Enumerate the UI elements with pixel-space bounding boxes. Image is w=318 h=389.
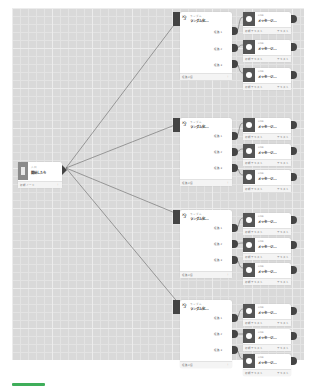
- start-node-menu[interactable]: ⋮: [57, 183, 60, 186]
- start-node-type: 入口: [31, 165, 37, 169]
- message-footer-type: テキスト: [277, 161, 289, 165]
- randomize-icon: ⅋: [182, 120, 187, 127]
- path-label: 経路1: [214, 226, 222, 230]
- message-icon-box: [243, 40, 255, 54]
- message-node[interactable]: LINE メッセージ... 初期テキスト テキスト: [243, 238, 291, 260]
- randomizer-menu[interactable]: ⋮: [227, 363, 230, 366]
- randomizer-title: ランダム化...: [190, 124, 209, 129]
- message-title: メッセージ...: [258, 335, 277, 340]
- start-node[interactable]: 入口 開始したら 初期ノード ⋮: [18, 162, 62, 188]
- message-footer-label: 初期テキスト: [245, 161, 263, 165]
- randomizer-footer: 経路3個 ⋮: [180, 271, 232, 278]
- randomize-icon: ⅋: [182, 302, 187, 309]
- message-icon-box: [243, 329, 255, 343]
- randomizer-title: ランダム化...: [190, 216, 209, 221]
- message-type: LINE: [258, 240, 264, 243]
- message-footer: 初期テキスト テキスト: [243, 344, 291, 351]
- message-node[interactable]: LINE メッセージ... 初期テキスト テキスト: [243, 68, 291, 90]
- randomizer-node[interactable]: ランダム ランダム化... ⅋ 経路1 経路2 経路3 経路3個 ⋮: [180, 12, 232, 80]
- message-node[interactable]: LINE メッセージ... 初期テキスト テキスト: [243, 263, 291, 285]
- path-label: 経路2: [214, 150, 222, 154]
- message-title: メッセージ...: [258, 310, 277, 315]
- message-footer-label: 初期テキスト: [245, 135, 263, 139]
- randomizer-menu[interactable]: ⋮: [227, 75, 230, 78]
- randomizer-footer: 経路3個 ⋮: [180, 73, 232, 80]
- path-label: 経路1: [214, 134, 222, 138]
- randomizer-menu[interactable]: ⋮: [227, 181, 230, 184]
- path-label: 経路1: [214, 30, 222, 34]
- message-node[interactable]: LINE メッセージ... 初期テキスト テキスト: [243, 329, 291, 351]
- message-title: メッセージ...: [258, 219, 277, 224]
- randomizer-node[interactable]: ランダム ランダム化... ⅋ 経路1 経路2 経路3 経路3個 ⋮: [180, 210, 232, 278]
- message-footer-label: 初期テキスト: [245, 187, 263, 191]
- entry-icon: [18, 162, 28, 180]
- message-footer-type: テキスト: [277, 135, 289, 139]
- message-footer: 初期テキスト テキスト: [243, 278, 291, 285]
- message-icon-box: [243, 118, 255, 132]
- chat-bubble-icon: [246, 217, 252, 223]
- message-footer: 初期テキスト テキスト: [243, 27, 291, 34]
- message-type: LINE: [258, 14, 264, 17]
- message-icon-box: [243, 263, 255, 277]
- message-node[interactable]: LINE メッセージ... 初期テキスト テキスト: [243, 144, 291, 166]
- message-footer-label: 初期テキスト: [245, 346, 263, 350]
- message-footer: 初期テキスト テキスト: [243, 369, 291, 376]
- message-footer-type: テキスト: [277, 57, 289, 61]
- message-node[interactable]: LINE メッセージ... 初期テキスト テキスト: [243, 170, 291, 192]
- message-type: LINE: [258, 215, 264, 218]
- randomizer-node[interactable]: ランダム ランダム化... ⅋ 経路1 経路2 経路3 経路3個 ⋮: [180, 300, 232, 368]
- message-footer: 初期テキスト テキスト: [243, 185, 291, 192]
- message-footer-type: テキスト: [277, 321, 289, 325]
- message-node[interactable]: LINE メッセージ... 初期テキスト テキスト: [243, 304, 291, 326]
- randomizer-menu[interactable]: ⋮: [227, 273, 230, 276]
- message-title: メッセージ...: [258, 269, 277, 274]
- message-type: LINE: [258, 146, 264, 149]
- path-label: 経路2: [214, 242, 222, 246]
- message-type: LINE: [258, 70, 264, 73]
- message-node[interactable]: LINE メッセージ... 初期テキスト テキスト: [243, 213, 291, 235]
- message-node[interactable]: LINE メッセージ... 初期テキスト テキスト: [243, 40, 291, 62]
- message-footer-label: 初期テキスト: [245, 29, 263, 33]
- message-footer: 初期テキスト テキスト: [243, 133, 291, 140]
- chat-bubble-icon: [246, 242, 252, 248]
- message-footer: 初期テキスト テキスト: [243, 253, 291, 260]
- randomizer-footer: 経路3個 ⋮: [180, 361, 232, 368]
- randomize-icon: ⅋: [182, 212, 187, 219]
- message-icon-box: [243, 144, 255, 158]
- message-footer-type: テキスト: [277, 371, 289, 375]
- message-type: LINE: [258, 331, 264, 334]
- randomize-icon: [173, 300, 180, 314]
- chat-bubble-icon: [246, 358, 252, 364]
- message-node[interactable]: LINE メッセージ... 初期テキスト テキスト: [243, 12, 291, 34]
- message-title: メッセージ...: [258, 244, 277, 249]
- start-node-title: 開始したら: [31, 170, 46, 175]
- randomizer-node[interactable]: ランダム ランダム化... ⅋ 経路1 経路2 経路3 経路3個 ⋮: [180, 118, 232, 186]
- message-type: LINE: [258, 265, 264, 268]
- message-footer-type: テキスト: [277, 187, 289, 191]
- chat-bubble-icon: [246, 174, 252, 180]
- message-icon-box: [243, 354, 255, 368]
- message-footer: 初期テキスト テキスト: [243, 55, 291, 62]
- randomize-icon: [173, 210, 180, 224]
- message-title: メッセージ...: [258, 176, 277, 181]
- message-footer: 初期テキスト テキスト: [243, 159, 291, 166]
- message-node[interactable]: LINE メッセージ... 初期テキスト テキスト: [243, 354, 291, 376]
- chat-bubble-icon: [246, 267, 252, 273]
- message-footer-label: 初期テキスト: [245, 85, 263, 89]
- message-type: LINE: [258, 42, 264, 45]
- chat-bubble-icon: [246, 122, 252, 128]
- start-node-footer: 初期ノード ⋮: [18, 181, 62, 188]
- message-icon-box: [243, 12, 255, 26]
- message-type: LINE: [258, 172, 264, 175]
- message-type: LINE: [258, 356, 264, 359]
- message-icon-box: [243, 68, 255, 82]
- message-footer-label: 初期テキスト: [245, 321, 263, 325]
- message-node[interactable]: LINE メッセージ... 初期テキスト テキスト: [243, 118, 291, 140]
- message-footer-type: テキスト: [277, 280, 289, 284]
- message-footer-type: テキスト: [277, 230, 289, 234]
- message-output-port[interactable]: [291, 357, 297, 365]
- message-title: メッセージ...: [258, 74, 277, 79]
- start-node-output-port[interactable]: [62, 165, 67, 175]
- randomize-icon: [173, 12, 180, 26]
- randomizer-footer-label: 経路3個: [182, 75, 193, 79]
